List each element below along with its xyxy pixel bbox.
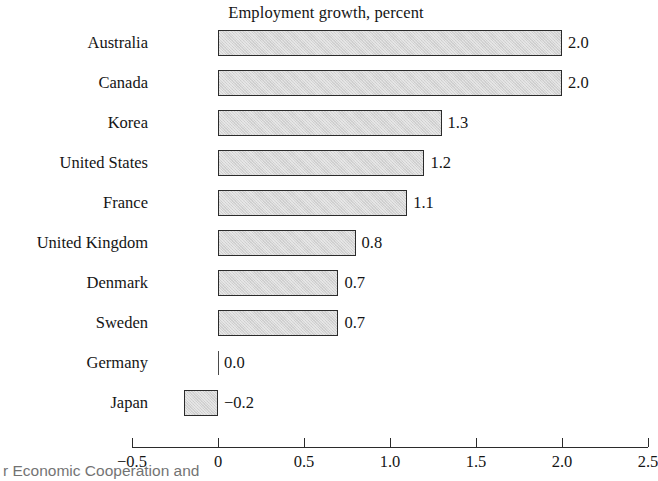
category-label: Japan bbox=[0, 390, 148, 416]
category-label: Australia bbox=[0, 30, 148, 56]
x-axis-line bbox=[132, 447, 648, 448]
bar-row: Japan−0.2 bbox=[0, 390, 652, 430]
x-axis-tick bbox=[648, 438, 649, 447]
category-label: Sweden bbox=[0, 310, 148, 336]
value-label: 1.3 bbox=[448, 110, 469, 136]
bar bbox=[218, 310, 338, 336]
value-label: 0.0 bbox=[224, 350, 245, 376]
x-axis-tick bbox=[562, 438, 563, 447]
bar-row: Korea1.3 bbox=[0, 110, 652, 150]
source-footnote: r Economic Cooperation and bbox=[3, 462, 199, 480]
bar bbox=[218, 190, 407, 216]
value-label: 0.7 bbox=[344, 310, 365, 336]
category-label: Denmark bbox=[0, 270, 148, 296]
value-label: 1.2 bbox=[430, 150, 451, 176]
x-axis-tick bbox=[304, 438, 305, 447]
bar-row: Denmark0.7 bbox=[0, 270, 652, 310]
value-label: 2.0 bbox=[568, 70, 589, 96]
value-label: 0.8 bbox=[362, 230, 383, 256]
category-label: France bbox=[0, 190, 148, 216]
x-axis-tick-label: 0.5 bbox=[294, 452, 315, 472]
bar-row: Canada2.0 bbox=[0, 70, 652, 110]
category-label: Korea bbox=[0, 110, 148, 136]
value-label: −0.2 bbox=[224, 390, 254, 416]
value-label: 0.7 bbox=[344, 270, 365, 296]
bar bbox=[218, 230, 356, 256]
bar bbox=[218, 30, 562, 56]
x-axis-tick-label: 0 bbox=[214, 452, 222, 472]
category-label: United Kingdom bbox=[0, 230, 148, 256]
bar-row: Sweden0.7 bbox=[0, 310, 652, 350]
x-axis-tick-label: 1.0 bbox=[380, 452, 401, 472]
bar-row: Australia2.0 bbox=[0, 30, 652, 70]
x-axis-tick-label: 2.5 bbox=[638, 452, 658, 472]
x-axis-tick-label: 2.0 bbox=[552, 452, 573, 472]
x-axis-tick-label: 1.5 bbox=[466, 452, 487, 472]
chart-title: Employment growth, percent bbox=[0, 3, 652, 23]
bar-row: Germany0.0 bbox=[0, 350, 652, 390]
bar-row: United States1.2 bbox=[0, 150, 652, 190]
category-label: United States bbox=[0, 150, 148, 176]
value-label: 2.0 bbox=[568, 30, 589, 56]
bar bbox=[218, 351, 219, 375]
plot-area: Australia2.0Canada2.0Korea1.3United Stat… bbox=[0, 28, 652, 428]
bar bbox=[218, 70, 562, 96]
x-axis-tick bbox=[218, 438, 219, 447]
bar-row: United Kingdom0.8 bbox=[0, 230, 652, 270]
x-axis-tick bbox=[390, 438, 391, 447]
bar bbox=[218, 150, 424, 176]
bar bbox=[218, 110, 442, 136]
category-label: Germany bbox=[0, 350, 148, 376]
value-label: 1.1 bbox=[413, 190, 434, 216]
bar bbox=[218, 270, 338, 296]
x-axis-tick bbox=[476, 438, 477, 447]
category-label: Canada bbox=[0, 70, 148, 96]
bar bbox=[184, 390, 218, 416]
bar-row: France1.1 bbox=[0, 190, 652, 230]
x-axis-tick bbox=[132, 438, 133, 447]
